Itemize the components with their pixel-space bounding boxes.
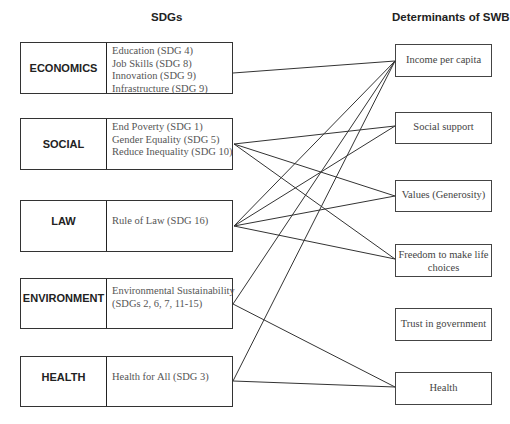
connector-line — [233, 381, 395, 387]
goal-list: Health for All (SDG 3) — [112, 371, 230, 384]
determinants-header: Determinants of SWB — [392, 11, 510, 23]
connector-line — [234, 196, 395, 226]
sdg-box-law: LAW Rule of Law (SDG 16) — [20, 200, 233, 252]
goal-item: Environmental Sustainability — [112, 285, 230, 298]
sdg-box-social: SOCIAL End Poverty (SDG 1) Gender Equali… — [20, 118, 233, 170]
goal-item: (SDGs 2, 6, 7, 11-15) — [112, 298, 230, 311]
determinant-income: Income per capita — [395, 44, 492, 77]
goal-item: Health for All (SDG 3) — [112, 371, 230, 384]
connector-line — [233, 61, 395, 381]
connector-line — [233, 61, 395, 304]
goal-list: End Poverty (SDG 1) Gender Equality (SDG… — [112, 121, 230, 159]
sdg-box-economics: ECONOMICS Education (SDG 4) Job Skills (… — [20, 42, 233, 94]
connector-line — [233, 304, 395, 387]
connector-line — [234, 144, 395, 259]
determinant-social-support: Social support — [395, 112, 492, 144]
goal-list: Environmental Sustainability (SDGs 2, 6,… — [112, 285, 230, 310]
sdg-box-health: HEALTH Health for All (SDG 3) — [20, 356, 233, 407]
determinant-values: Values (Generosity) — [395, 180, 492, 212]
sdg-box-environment: ENVIRONMENT Environmental Sustainability… — [20, 278, 233, 329]
goal-item: End Poverty (SDG 1) — [112, 121, 230, 134]
goal-item: Innovation (SDG 9) — [112, 70, 230, 83]
determinant-freedom: Freedom to make life choices — [395, 244, 492, 277]
connector-line — [234, 226, 395, 259]
connector-line — [234, 126, 395, 226]
goal-item: Rule of Law (SDG 16) — [112, 215, 230, 228]
goal-item: Education (SDG 4) — [112, 45, 230, 58]
goal-item: Job Skills (SDG 8) — [112, 58, 230, 71]
category-label: ENVIRONMENT — [21, 279, 107, 328]
goal-list: Rule of Law (SDG 16) — [112, 215, 230, 228]
connector-line — [234, 144, 395, 196]
connector-line — [234, 61, 395, 226]
connector-line — [233, 61, 395, 73]
goal-item: Infrastructure (SDG 9) — [112, 83, 230, 96]
category-label: SOCIAL — [21, 119, 107, 169]
goal-list: Education (SDG 4) Job Skills (SDG 8) Inn… — [112, 45, 230, 95]
determinant-health: Health — [395, 372, 492, 405]
sdgs-header: SDGs — [151, 11, 182, 23]
determinant-trust: Trust in government — [395, 308, 492, 341]
category-label: HEALTH — [21, 357, 107, 406]
category-label: LAW — [21, 201, 107, 251]
connector-line — [234, 126, 395, 144]
goal-item: Gender Equality (SDG 5) — [112, 134, 230, 147]
category-label: ECONOMICS — [21, 43, 107, 93]
goal-item: Reduce Inequality (SDG 10) — [112, 146, 230, 159]
